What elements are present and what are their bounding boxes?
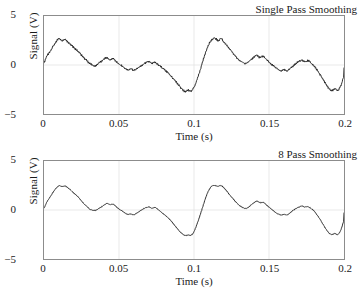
annotation-single-pass: Single Pass Smoothing (256, 3, 357, 15)
x-axis-tick-bottom-005: 0.05 (97, 263, 141, 274)
x-axis-tick-bottom-0: 0 (21, 263, 65, 274)
y-axis-tick-top-0: 0 (0, 59, 16, 70)
chart-panel-single-pass: Signal (V) 5 0 −5 Single Pass Smoothing … (0, 0, 363, 144)
x-axis-tick-top-02: 0.2 (323, 118, 363, 129)
x-axis-tick-top-015: 0.15 (248, 118, 292, 129)
y-axis-tick-bottom-minus5: −5 (0, 254, 16, 265)
figure-signal-smoothing-comparison: Signal (V) 5 0 −5 Single Pass Smoothing … (0, 0, 363, 289)
y-axis-tick-bottom-5: 5 (0, 154, 16, 165)
y-axis-label-bottom: Signal (V) (27, 146, 39, 216)
x-axis-label-bottom: Time (s) (43, 275, 345, 287)
x-axis-tick-top-005: 0.05 (97, 118, 141, 129)
chart-panel-8-pass: Signal (V) 5 0 −5 8 Pass Smoothing 0 0.0… (0, 145, 363, 289)
signal-trace-8-pass (44, 161, 344, 259)
annotation-8-pass: 8 Pass Smoothing (278, 148, 357, 160)
x-axis-tick-top-0: 0 (21, 118, 65, 129)
x-axis-tick-bottom-01: 0.1 (172, 263, 216, 274)
y-axis-label-top: Signal (V) (27, 1, 39, 71)
plot-area-single-pass (43, 15, 345, 115)
x-axis-tick-bottom-015: 0.15 (248, 263, 292, 274)
y-axis-tick-top-minus5: −5 (0, 109, 16, 120)
y-axis-tick-top-5: 5 (0, 9, 16, 20)
x-axis-tick-bottom-02: 0.2 (323, 263, 363, 274)
x-axis-tick-top-01: 0.1 (172, 118, 216, 129)
x-axis-label-top: Time (s) (43, 130, 345, 142)
y-axis-tick-bottom-0: 0 (0, 204, 16, 215)
plot-area-8-pass (43, 160, 345, 260)
signal-trace-single-pass (44, 16, 344, 114)
